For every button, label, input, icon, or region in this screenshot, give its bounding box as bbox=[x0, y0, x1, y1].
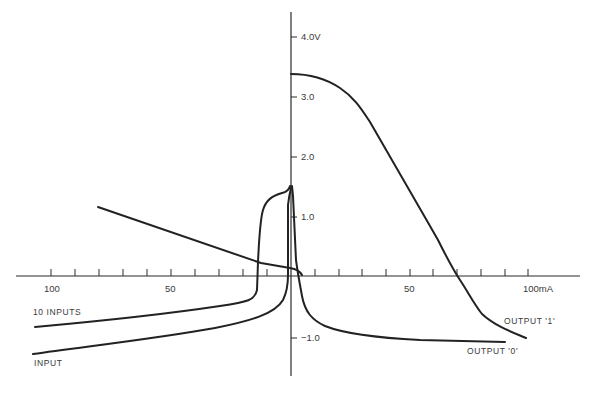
curve-output-0 bbox=[292, 186, 505, 342]
label-output-1: OUTPUT '1' bbox=[504, 316, 555, 326]
x-label-right-50: 50 bbox=[404, 283, 415, 294]
curve-load-line bbox=[98, 207, 302, 275]
curve-10-inputs bbox=[35, 186, 290, 327]
x-label-left-50: 50 bbox=[165, 283, 176, 294]
x-ticks-left bbox=[51, 269, 267, 276]
x-ticks-right bbox=[315, 269, 528, 276]
chart-canvas: 4.0V 3.0 2.0 1.0 −1.0 100 50 50 100mA 10… bbox=[0, 0, 594, 393]
label-output-0: OUTPUT '0' bbox=[467, 346, 518, 356]
label-input: INPUT bbox=[34, 358, 63, 368]
y-label-4v: 4.0V bbox=[301, 31, 321, 42]
x-label-left-100: 100 bbox=[44, 283, 60, 294]
curve-input bbox=[33, 188, 291, 354]
x-label-right-100ma: 100mA bbox=[523, 283, 554, 294]
y-label-3v: 3.0 bbox=[301, 91, 314, 102]
y-label-neg1v: −1.0 bbox=[301, 332, 320, 343]
curve-output-1 bbox=[291, 74, 526, 338]
y-label-2v: 2.0 bbox=[301, 151, 314, 162]
label-10-inputs: 10 INPUTS bbox=[33, 307, 81, 317]
y-label-1v: 1.0 bbox=[301, 211, 314, 222]
